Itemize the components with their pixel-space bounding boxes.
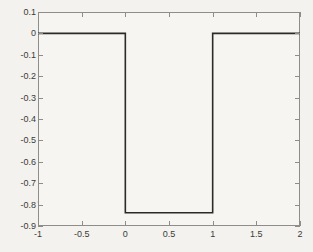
- y-tick-label: -0.6: [2, 158, 36, 167]
- y-tick-mark: [38, 140, 43, 141]
- x-tick-mark-top: [213, 12, 214, 17]
- x-tick-mark-top: [169, 12, 170, 17]
- y-tick-label: 0: [2, 29, 36, 38]
- y-tick-label: -0.4: [2, 115, 36, 124]
- x-tick-label: 2: [280, 230, 313, 239]
- y-tick-mark: [38, 205, 43, 206]
- x-tick-label: -0.5: [62, 230, 102, 239]
- y-tick-label: -0.7: [2, 179, 36, 188]
- y-tick-mark-right: [295, 76, 300, 77]
- y-tick-mark: [38, 55, 43, 56]
- y-tick-label: -0.2: [2, 72, 36, 81]
- y-axis-tick-labels: 0.10-0.1-0.2-0.3-0.4-0.5-0.6-0.7-0.8-0.9: [0, 0, 36, 252]
- y-tick-mark-right: [295, 55, 300, 56]
- x-tick-mark: [125, 221, 126, 226]
- plot-area: [38, 12, 300, 226]
- y-tick-mark: [38, 98, 43, 99]
- x-tick-mark: [300, 221, 301, 226]
- x-tick-mark-top: [300, 12, 301, 17]
- y-tick-mark-right: [295, 33, 300, 34]
- y-tick-mark-right: [295, 98, 300, 99]
- x-tick-mark: [256, 221, 257, 226]
- x-tick-label: -1: [18, 230, 58, 239]
- x-axis-tick-labels: -1-0.500.511.52: [0, 230, 313, 244]
- y-tick-mark: [38, 162, 43, 163]
- x-tick-mark-top: [125, 12, 126, 17]
- y-tick-mark: [38, 226, 43, 227]
- y-tick-mark-right: [295, 205, 300, 206]
- y-tick-mark-right: [295, 162, 300, 163]
- x-tick-mark: [213, 221, 214, 226]
- x-tick-label: 0: [105, 230, 145, 239]
- y-tick-label: 0.1: [2, 8, 36, 17]
- y-tick-mark-right: [295, 183, 300, 184]
- figure-canvas: 0.10-0.1-0.2-0.3-0.4-0.5-0.6-0.7-0.8-0.9…: [0, 0, 313, 252]
- y-tick-label: -0.8: [2, 201, 36, 210]
- x-tick-label: 1.5: [236, 230, 276, 239]
- y-tick-mark-right: [295, 119, 300, 120]
- x-tick-mark: [169, 221, 170, 226]
- x-tick-label: 0.5: [149, 230, 189, 239]
- y-tick-mark: [38, 33, 43, 34]
- y-tick-mark: [38, 119, 43, 120]
- x-tick-mark-top: [256, 12, 257, 17]
- y-tick-mark-right: [295, 140, 300, 141]
- y-tick-mark: [38, 76, 43, 77]
- x-tick-label: 1: [193, 230, 233, 239]
- y-tick-label: -0.5: [2, 136, 36, 145]
- x-tick-mark-top: [38, 12, 39, 17]
- y-tick-mark: [38, 183, 43, 184]
- data-series-square-pulse: [38, 33, 300, 212]
- y-tick-label: -0.1: [2, 51, 36, 60]
- y-tick-mark-right: [295, 226, 300, 227]
- x-tick-mark: [82, 221, 83, 226]
- x-tick-mark: [38, 221, 39, 226]
- x-tick-mark-top: [82, 12, 83, 17]
- y-tick-label: -0.3: [2, 94, 36, 103]
